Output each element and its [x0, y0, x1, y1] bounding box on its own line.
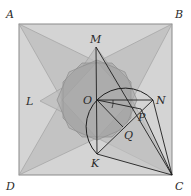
- label-n: N: [155, 94, 166, 107]
- label-a: A: [5, 8, 14, 21]
- label-q: Q: [124, 129, 133, 142]
- label-d: D: [5, 180, 15, 193]
- label-b: B: [174, 8, 183, 21]
- geometry-diagram: A B C D M N K L O P Q: [0, 0, 191, 196]
- label-l: L: [25, 95, 33, 108]
- label-p: P: [137, 111, 146, 124]
- label-o: O: [83, 94, 92, 107]
- label-c: C: [175, 180, 184, 193]
- label-k: K: [90, 157, 100, 170]
- label-m: M: [89, 33, 102, 46]
